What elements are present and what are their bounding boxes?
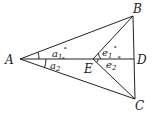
point-label-a: A [4, 53, 14, 67]
point-label-b: B [132, 2, 142, 16]
segment-bc [133, 16, 135, 99]
segment-ac [20, 59, 135, 99]
angle-label-e1: e1° [102, 45, 117, 60]
geometry-diagram: A B C D E a1° a2° e1° e2° [0, 0, 154, 114]
angle-arc-e2 [97, 59, 98, 62]
point-label-c: C [135, 99, 144, 113]
angle-arc-e1 [98, 53, 101, 59]
angle-arc-a1 [38, 52, 39, 59]
angle-arc-a2 [45, 59, 46, 68]
point-label-e: E [83, 62, 93, 76]
point-label-d: D [136, 53, 147, 67]
